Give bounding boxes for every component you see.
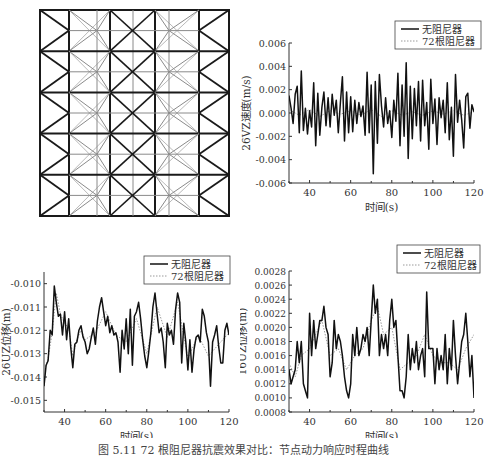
x-tick-label: 40: [303, 416, 316, 427]
x-axis-label: 时间(s): [365, 430, 399, 438]
y-tick-label: -0.012: [11, 325, 41, 336]
chart-axes: 4060801001200.00080.00100.00120.00140.00…: [240, 267, 484, 439]
y-tick-label: 0.0012: [255, 379, 287, 389]
y-tick-label: 0.0026: [255, 281, 287, 291]
velocity-line-chart: 406080100120-0.006-0.004-0.0020.0000.002…: [240, 0, 487, 228]
x-tick-label: 120: [219, 416, 238, 427]
x-axis-label: 时间(s): [120, 430, 154, 438]
y-tick-label: 0.0018: [255, 337, 287, 347]
y-tick-label: 0.002: [259, 84, 286, 95]
y-axis-label: 26VZ速度(m/s): [240, 75, 252, 150]
truss-structure-drawing: [0, 0, 240, 228]
y-tick-label: -0.011: [11, 302, 41, 313]
legend-label-72-dampers: 72根阻尼器: [171, 270, 224, 282]
y-tick-label: 0.0010: [255, 393, 287, 403]
truss-members: [40, 10, 229, 216]
figure-caption: 图 5.11 72 根阻尼器抗震效果对比：节点动力响应时程曲线: [0, 441, 487, 457]
y-tick-label: -0.015: [11, 395, 41, 406]
y-tick-label: 0.004: [259, 61, 286, 72]
x-axis-label: 时间(s): [365, 201, 399, 213]
displacement-26uz-line-chart: 406080100120-0.015-0.014-0.013-0.012-0.0…: [0, 228, 245, 438]
y-tick-label: 0.0024: [255, 295, 287, 305]
chart-displacement-26uz: 406080100120-0.015-0.014-0.013-0.012-0.0…: [0, 228, 245, 438]
y-tick-label: -0.004: [256, 154, 286, 165]
x-tick-label: 80: [385, 187, 398, 198]
chart-displacement-16uz: 4060801001200.00080.00100.00120.00140.00…: [240, 228, 487, 438]
chart-velocity-26vz: 406080100120-0.006-0.004-0.0020.0000.002…: [240, 0, 487, 228]
y-axis-label: 26UZ位移(m): [0, 308, 12, 376]
x-tick-label: 120: [464, 416, 483, 427]
chart-legend: 无阻尼器72根阻尼器: [395, 21, 481, 49]
legend-label-no-dampers: 无阻尼器: [424, 248, 464, 259]
y-tick-label: 0.006: [259, 38, 286, 49]
y-tick-label: 0.000: [259, 108, 286, 119]
x-tick-label: 80: [140, 416, 153, 427]
x-tick-label: 80: [385, 416, 398, 427]
chart-axes: 406080100120-0.006-0.004-0.0020.0000.002…: [240, 38, 484, 214]
series-line-no-dampers: [44, 286, 229, 386]
x-tick-label: 100: [423, 416, 442, 427]
y-tick-label: -0.013: [11, 348, 41, 359]
y-tick-label: 0.0008: [255, 408, 287, 418]
x-tick-label: 100: [423, 187, 442, 198]
x-tick-label: 60: [99, 416, 112, 427]
y-tick-label: -0.014: [11, 372, 41, 383]
x-tick-label: 100: [178, 416, 197, 427]
x-tick-label: 40: [303, 187, 316, 198]
x-tick-label: 120: [464, 187, 483, 198]
displacement-16uz-line-chart: 4060801001200.00080.00100.00120.00140.00…: [240, 228, 487, 438]
y-tick-label: 0.0028: [255, 267, 287, 277]
y-tick-label: 0.0016: [255, 351, 287, 361]
y-tick-label: -0.002: [256, 131, 286, 142]
y-tick-label: -0.010: [11, 278, 41, 289]
chart-legend: 无阻尼器72根阻尼器: [397, 245, 480, 273]
x-tick-label: 60: [344, 416, 357, 427]
y-tick-label: -0.006: [256, 178, 286, 189]
y-axis-label: 16UZ位移(m): [240, 308, 248, 376]
y-tick-label: 0.0020: [255, 323, 287, 333]
y-tick-label: 0.0022: [255, 309, 287, 319]
x-tick-label: 40: [58, 416, 71, 427]
y-tick-label: 0.0014: [255, 365, 287, 375]
series-line-no-dampers: [289, 63, 474, 174]
series-line-no-dampers: [289, 285, 474, 398]
truss-diagram: [0, 0, 240, 228]
chart-legend: 无阻尼器72根阻尼器: [144, 256, 230, 284]
legend-label-72-dampers: 72根阻尼器: [422, 35, 475, 47]
chart-series: [289, 63, 474, 174]
x-tick-label: 60: [344, 187, 357, 198]
legend-label-no-dampers: 无阻尼器: [422, 24, 462, 35]
chart-series: [44, 286, 229, 386]
legend-label-no-dampers: 无阻尼器: [171, 259, 211, 270]
legend-label-72-dampers: 72根阻尼器: [424, 259, 477, 271]
chart-series: [289, 285, 474, 398]
